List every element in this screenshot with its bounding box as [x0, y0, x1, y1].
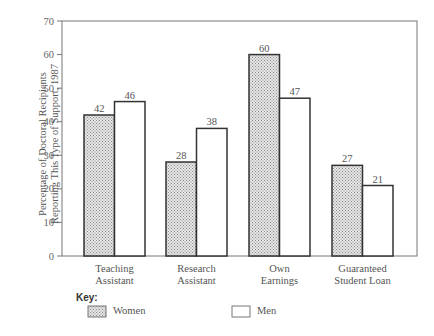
- x-category-label: TeachingAssistant: [70, 263, 160, 287]
- legend-label-men: Men: [257, 305, 276, 316]
- bar-value-label: 27: [342, 153, 353, 164]
- legend-swatch-men: [232, 306, 250, 317]
- bar-men: [197, 128, 228, 256]
- bar-women: [332, 165, 363, 256]
- bar-men: [115, 102, 146, 256]
- legend-title: Key:: [76, 292, 98, 303]
- bars: 4246283860472721: [84, 43, 393, 256]
- bar-value-label: 28: [176, 150, 187, 161]
- bar-value-label: 21: [373, 174, 384, 185]
- bar-women: [249, 55, 280, 256]
- bar-value-label: 42: [94, 103, 105, 114]
- bar-men: [363, 186, 394, 257]
- x-category-label: ResearchAssistant: [152, 263, 242, 287]
- y-tick-label: 70: [44, 16, 55, 27]
- bar-value-label: 60: [259, 43, 270, 54]
- legend-label-women: Women: [113, 305, 145, 316]
- x-category-label: OwnEarnings: [235, 263, 325, 287]
- bar-women: [84, 115, 115, 256]
- bar-value-label: 38: [207, 116, 218, 127]
- bar-value-label: 46: [125, 90, 136, 101]
- bar-women: [166, 162, 197, 256]
- bar-men: [280, 98, 311, 256]
- x-category-label: GuaranteedStudent Loan: [318, 263, 408, 287]
- y-axis-label: Percentage of Doctoral Recipients Report…: [37, 35, 61, 253]
- bar-value-label: 47: [290, 86, 301, 97]
- legend-swatch-women: [88, 306, 106, 317]
